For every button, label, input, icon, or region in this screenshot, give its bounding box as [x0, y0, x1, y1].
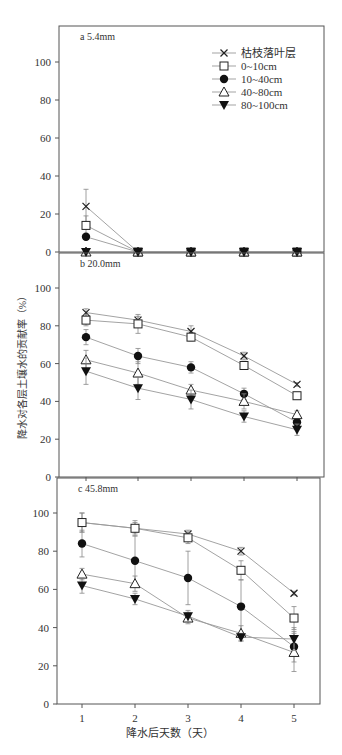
y-tick-label: 80: [40, 94, 52, 106]
panel-title: b 20.0mm: [80, 258, 121, 269]
x-tick-label: 2: [132, 712, 138, 724]
legend-item: 10~40cm: [212, 73, 283, 85]
y-tick-label: 80: [40, 320, 52, 332]
y-tick-label: 0: [44, 698, 50, 710]
y-axis-label: 降水对各层土壤水的贡献率（%）: [16, 291, 28, 439]
panel-title: c 45.8mm: [78, 483, 118, 494]
x-tick-label: 5: [291, 712, 297, 724]
svg-text:0~10cm: 0~10cm: [241, 60, 277, 72]
legend-item: 0~10cm: [212, 60, 277, 72]
x-axis-label: 降水后天数（天）: [126, 726, 214, 739]
svg-text:40~80cm: 40~80cm: [241, 86, 283, 98]
y-tick-label: 60: [40, 358, 52, 370]
x-tick-label: 3: [185, 712, 191, 724]
legend-item: 40~80cm: [212, 86, 283, 98]
y-tick-label: 40: [38, 622, 50, 634]
y-tick-label: 100: [35, 282, 52, 294]
panel-title: a 5.4mm: [80, 31, 115, 42]
y-tick-label: 40: [40, 395, 52, 407]
legend-item: 80~100cm: [212, 99, 288, 111]
panel-b: 020406080100b 20.0mm: [35, 253, 325, 483]
panel-a: 020406080100a 5.4mm: [35, 26, 325, 258]
y-tick-label: 20: [40, 208, 52, 220]
y-tick-label: 20: [38, 660, 50, 672]
x-tick-label: 4: [238, 712, 244, 724]
y-tick-label: 100: [35, 56, 52, 68]
y-tick-label: 40: [40, 170, 52, 182]
svg-text:枯枝落叶层: 枯枝落叶层: [241, 46, 296, 59]
y-tick-label: 60: [40, 132, 52, 144]
svg-text:80~100cm: 80~100cm: [241, 99, 288, 111]
y-tick-label: 100: [33, 507, 50, 519]
svg-text:10~40cm: 10~40cm: [241, 73, 283, 85]
y-tick-label: 60: [38, 583, 50, 595]
y-tick-label: 0: [46, 471, 52, 483]
y-tick-label: 80: [38, 545, 50, 557]
legend-item: 枯枝落叶层: [212, 46, 296, 59]
y-tick-label: 0: [46, 246, 52, 258]
x-tick-label: 1: [79, 712, 85, 724]
y-tick-label: 20: [40, 433, 52, 445]
panel-c: 020406080100c 45.8mm12345: [33, 478, 321, 724]
soil-water-contribution-chart: 020406080100a 5.4mm020406080100b 20.0mm0…: [0, 0, 342, 755]
legend: 枯枝落叶层0~10cm10~40cm40~80cm80~100cm: [212, 46, 296, 111]
